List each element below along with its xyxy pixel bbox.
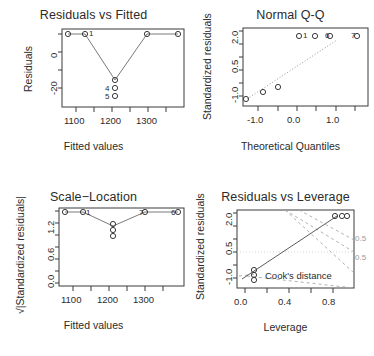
point-label: 1: [303, 31, 307, 40]
x-tick-label: 1300: [136, 115, 157, 126]
panel-normal-qq: Normal Q-Q Standardized residuals 2.0 0.…: [187, 0, 374, 178]
x-tick-label: 1200: [100, 115, 121, 126]
point-label: 1: [89, 29, 93, 38]
point-label: 1: [86, 208, 90, 217]
cooks-distance-annotation: Cook's distance: [265, 270, 332, 281]
panel-scale-location: Scale−Location √|Standardized residuals|…: [0, 178, 187, 356]
point-label: 5: [105, 92, 109, 101]
cook-contour-label: 0.5: [355, 234, 366, 243]
point-label: 7: [351, 31, 355, 40]
panel-residuals-vs-leverage: Residuals vs Leverage Standardized resid…: [187, 178, 374, 356]
x-axis-label: Fitted values: [0, 140, 187, 152]
cook-contour-label: 0.5: [355, 253, 366, 262]
x-tick-label: 1.0: [326, 114, 339, 125]
point-label: 6: [171, 208, 175, 217]
x-axis-label: Leverage: [197, 321, 374, 333]
x-axis-label: Fitted values: [0, 319, 187, 331]
x-tick-label: 0.8: [322, 296, 335, 307]
x-tick-label: 1100: [64, 115, 84, 126]
point-label: 6: [325, 31, 329, 40]
x-tick-label: 1300: [133, 294, 154, 305]
x-tick-label: 1200: [97, 294, 118, 305]
x-tick-label: 0.0: [287, 114, 300, 125]
diagnostic-plot-figure: Residuals vs Fitted Residuals 0 -20: [0, 0, 374, 356]
x-tick-label: 0.0: [234, 296, 247, 307]
x-tick-label: 1100: [61, 294, 81, 305]
x-tick-label: 0.4: [278, 296, 291, 307]
x-axis-label: Theoretical Quantiles: [207, 140, 374, 152]
x-tick-label: -1.0: [247, 114, 263, 125]
point-label: 7: [139, 208, 143, 217]
panel-residuals-vs-fitted: Residuals vs Fitted Residuals 0 -20: [0, 0, 187, 178]
